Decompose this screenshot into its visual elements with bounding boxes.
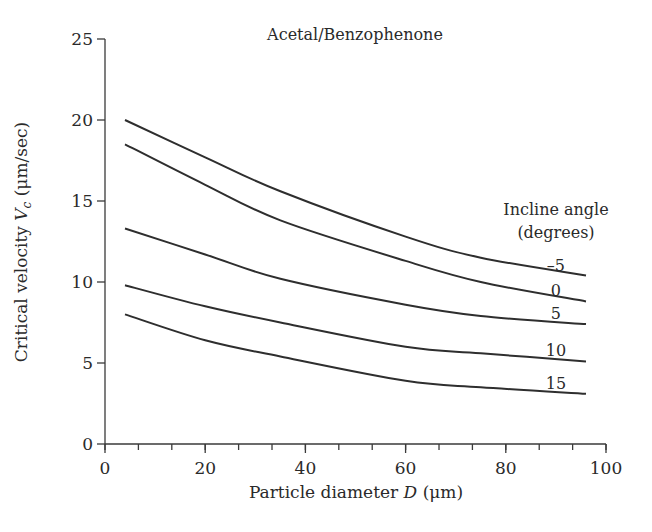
series-label-15: 15: [546, 374, 566, 393]
x-axis-title-prefix: Particle diameter: [249, 482, 404, 502]
y-axis-title: Critical velocity Vc (μm/sec): [11, 122, 34, 362]
series-curves: [125, 120, 586, 394]
series-labels: –5051015: [546, 256, 566, 393]
x-axis-title-unit: (μm): [417, 482, 463, 502]
x-tick-label: 40: [295, 458, 317, 478]
x-ticks: 020406080100: [100, 444, 623, 478]
y-tick-label: 5: [82, 353, 93, 373]
series-line--5: [125, 120, 586, 276]
y-tick-label: 25: [71, 29, 93, 49]
y-tick-label: 10: [71, 272, 93, 292]
series-label--5: –5: [547, 256, 565, 275]
series-line-10: [125, 285, 586, 361]
x-tick-label: 60: [395, 458, 417, 478]
chart-canvas: Acetal/Benzophenone 0510152025 020406080…: [0, 0, 652, 532]
x-tick-label: 0: [100, 458, 111, 478]
y-tick-label: 20: [71, 110, 93, 130]
chart-title: Acetal/Benzophenone: [266, 25, 443, 44]
series-label-5: 5: [551, 304, 561, 323]
x-tick-label: 20: [194, 458, 216, 478]
y-axis-title-unit: (μm/sec): [11, 122, 31, 202]
y-tick-label: 15: [71, 191, 93, 211]
y-tick-label: 0: [82, 434, 93, 454]
x-axis-title-var: D: [403, 482, 418, 502]
series-label-10: 10: [546, 341, 566, 360]
series-line-15: [125, 314, 586, 393]
series-label-0: 0: [551, 281, 561, 300]
x-tick-label: 80: [495, 458, 517, 478]
x-axis-title: Particle diameter D (μm): [249, 482, 463, 502]
y-axis-title-prefix: Critical velocity: [11, 221, 31, 362]
series-line-5: [125, 229, 586, 325]
y-ticks: 0510152025: [71, 29, 105, 454]
legend-title-line1: Incline angle: [503, 200, 608, 219]
x-tick-label: 100: [590, 458, 622, 478]
legend-title-line2: (degrees): [517, 223, 594, 242]
chart: Acetal/Benzophenone 0510152025 020406080…: [0, 0, 652, 532]
